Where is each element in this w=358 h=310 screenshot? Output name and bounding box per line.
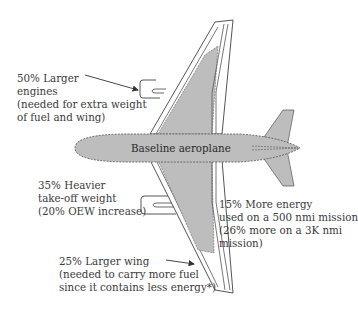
annotation-engines: 50% Larger engines (needed for extra wei…	[17, 72, 147, 124]
annotation-energy: 15% More energy used on a 500 nmi missio…	[219, 198, 358, 250]
annotation-line: 25% Larger wing	[59, 255, 216, 268]
annotation-wing: 25% Larger wing (needed to carry more fu…	[59, 255, 216, 294]
annotation-line: (needed to carry more fuel	[59, 268, 216, 281]
annotation-line: 35% Heavier	[38, 179, 146, 192]
annotation-takeoff-weight: 35% Heavier take-off weight (20% OEW inc…	[38, 179, 146, 218]
annotation-line: engines	[17, 85, 147, 98]
annotation-line: 15% More energy	[219, 198, 358, 211]
annotation-line: since it contains less energy*)	[59, 281, 216, 294]
annotation-line: used on a 500 nmi mission	[219, 211, 358, 224]
annotation-line: take-off weight	[38, 192, 146, 205]
upper-wing	[150, 20, 233, 134]
annotation-line: 50% Larger	[17, 72, 147, 85]
baseline-aeroplane-label: Baseline aeroplane	[131, 142, 231, 154]
annotation-line: (needed for extra weight	[17, 98, 147, 111]
annotation-line: mission)	[219, 237, 358, 250]
annotation-line: (26% more on a 3K nmi	[219, 224, 358, 237]
annotation-line: (20% OEW increase)	[38, 205, 146, 218]
annotation-line: of fuel and wing)	[17, 111, 147, 124]
